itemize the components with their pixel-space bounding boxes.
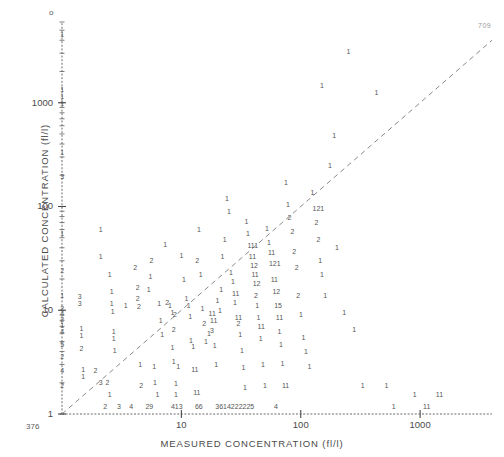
data-point-glyph: 1 [261,361,265,368]
data-point-glyph: 1 [110,300,114,307]
data-point-glyph: 1 [216,297,220,304]
data-point-glyph: 1 [110,288,114,295]
y-tick-label: 1 [0,408,53,419]
data-point-glyph: 1 [111,308,115,315]
data-point-glyph: 1 [286,201,290,208]
data-point-glyph: 2 [137,303,141,310]
data-point-glyph: 2 [93,367,97,374]
data-point-glyph: 1 [284,179,288,186]
data-point-glyph: 1 [171,344,175,351]
data-point-glyph: 1 [172,358,176,365]
data-point-glyph: 1 [204,338,208,345]
data-point-glyph: 2 [254,292,258,299]
data-point-glyph: 1 [280,360,284,367]
data-point-glyph: 1 [255,302,259,309]
data-point-glyph: 1 [60,93,64,100]
data-point-glyph: 1 [227,208,231,215]
data-point-glyph: 1 [375,89,379,96]
data-point-glyph: 1 [163,241,167,248]
data-point-glyph: 2 [150,257,154,264]
data-point-glyph: 1 [60,230,64,237]
data-point-glyph: 1 [124,302,128,309]
data-point-glyph: 1 [219,286,223,293]
data-point-glyph: 2 [315,219,319,226]
data-point-glyph: 12 [272,288,280,295]
chart-canvas [0,0,504,457]
data-point-glyph: 2 [237,320,241,327]
data-point-glyph: 2 [136,295,140,302]
data-point-glyph: 1 [231,278,235,285]
chart-container: CALCULATED CONCENTRATION (fl/l) MEASURED… [0,0,504,457]
data-point-glyph: 1 [182,276,186,283]
data-point-glyph: 1 [191,343,195,350]
data-point-glyph: 1 [188,313,192,320]
data-point-glyph: 11 [193,389,200,396]
data-point-glyph: 11 [210,317,217,324]
data-point-glyph: 1 [263,382,267,389]
data-point-glyph: 1 [311,189,315,196]
data-point-glyph: 1 [259,335,263,342]
data-point-glyph: 1 [156,391,160,398]
data-point-glyph: 1 [352,326,356,333]
data-point-glyph: 1 [246,230,250,237]
data-point-glyph: 1 [199,271,203,278]
baseline-count-glyph: 1 [392,403,396,410]
data-point-glyph: 1 [147,286,151,293]
data-point-glyph: 1 [159,317,163,324]
data-point-glyph: 1 [174,380,178,387]
data-point-glyph: 1 [138,361,142,368]
y-tick-label: 10 [0,304,53,315]
baseline-count-glyph: 413 [171,403,183,410]
data-point-glyph: 2 [60,267,64,274]
y-tick-label: 1000 [0,97,53,108]
data-point-glyph: 1 [60,149,64,156]
data-point-glyph: 1 [108,271,112,278]
y-axis-top-marker: o [49,8,53,17]
data-point-glyph: 1 [201,305,205,312]
data-point-glyph: 2 [60,382,64,389]
data-point-glyph: 1 [176,363,180,370]
data-point-glyph: 1 [413,391,417,398]
data-point-glyph: 1 [81,366,85,373]
data-point-glyph: 11 [282,382,289,389]
data-point-glyph: 2 [139,382,143,389]
data-point-glyph: 1 [197,226,201,233]
data-point-glyph: 1 [81,373,85,380]
data-point-glyph: 1 [149,273,153,280]
data-point-glyph: 1 [318,257,322,264]
axes-group [58,22,492,418]
data-point-glyph: 1 [323,292,327,299]
data-point-glyph: 1 [157,300,161,307]
data-point-glyph: 2 [287,214,291,221]
data-point-glyph: 1 [240,347,244,354]
data-point-glyph: 2 [136,284,140,291]
baseline-count-glyph: 4 [274,403,278,410]
data-point-glyph: 1 [99,226,103,233]
data-point-glyph: 4 [60,328,64,335]
data-point-glyph: 1 [384,382,388,389]
data-point-glyph: 2 [296,292,300,299]
y-tick-label: 100 [0,200,53,211]
data-point-glyph: 1 [174,391,178,398]
baseline-count-glyph: 11 [423,403,430,410]
data-point-glyph: 1 [233,299,237,306]
data-point-glyph: 11 [251,271,258,278]
data-point-glyph: 1 [238,331,242,338]
data-point-glyph: 1 [245,218,249,225]
data-point-glyph: 1 [320,82,324,89]
data-point-glyph: 11 [191,366,198,373]
data-point-glyph: 1 [60,292,64,299]
data-point-glyph: 1 [277,328,281,335]
data-point-glyph: 1 [214,361,218,368]
data-point-glyph: 2 [292,248,296,255]
origin-overplot-count: 376 [26,422,39,431]
baseline-count-glyph: 66 [195,403,203,410]
data-point-glyph: 2 [172,326,176,333]
data-point-glyph: 1 [225,195,229,202]
x-tick-label: 100 [261,419,341,430]
data-point-glyph: 1 [335,244,339,251]
data-point-glyph: 1 [180,252,184,259]
x-tick-label: 10 [141,419,221,430]
data-point-glyph: 1 [112,328,116,335]
x-tick-label: 1000 [380,419,460,430]
